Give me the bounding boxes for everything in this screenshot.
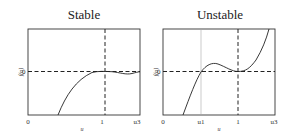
x-tick-u3: u3 — [134, 118, 142, 126]
x-tick-u3: u3 — [271, 118, 279, 126]
x-tick-0: 0 — [161, 118, 165, 126]
x-tick-1: 1 — [100, 118, 104, 126]
x-axis-label: u — [218, 126, 221, 132]
x-tick-1: 1 — [236, 118, 240, 126]
figure: Stable f(u) 0 0 1 u3 u Unstable f(u) 0 0… — [0, 0, 290, 136]
f-curve — [58, 71, 140, 115]
unstable-panel: Unstable f(u) 0 0 u1 1 u3 u — [153, 7, 278, 132]
stable-panel: Stable f(u) 0 0 1 u3 u — [18, 7, 141, 132]
stable-title: Stable — [68, 7, 101, 22]
x-tick-0: 0 — [26, 118, 30, 126]
unstable-title: Unstable — [197, 7, 243, 22]
y-tick-0: 0 — [22, 68, 26, 76]
y-tick-0: 0 — [157, 68, 161, 76]
x-tick-u1: u1 — [198, 118, 206, 126]
x-axis-label: u — [81, 126, 84, 132]
